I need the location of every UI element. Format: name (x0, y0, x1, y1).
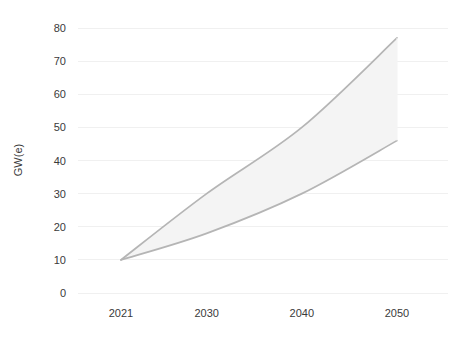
y-tick-label-20: 20 (54, 221, 66, 233)
chart-plot: 01020304050607080 2021203020402050 GW(e) (0, 0, 465, 339)
y-tick-label-40: 40 (54, 155, 66, 167)
y-tick-label-70: 70 (54, 55, 66, 67)
x-tick-label-2050: 2050 (385, 307, 409, 319)
chart-container: 01020304050607080 2021203020402050 GW(e) (0, 0, 465, 339)
y-tick-label-0: 0 (60, 287, 66, 299)
y-axis-title: GW(e) (12, 144, 24, 176)
y-tick-label-80: 80 (54, 22, 66, 34)
x-tick-label-2030: 2030 (194, 307, 218, 319)
y-tick-label-30: 30 (54, 188, 66, 200)
x-tick-label-2021: 2021 (109, 307, 133, 319)
y-tick-label-50: 50 (54, 121, 66, 133)
y-tick-label-10: 10 (54, 254, 66, 266)
y-tick-label-60: 60 (54, 88, 66, 100)
y-axis-tick-label-group: 01020304050607080 (54, 22, 66, 299)
x-tick-label-2040: 2040 (290, 307, 314, 319)
